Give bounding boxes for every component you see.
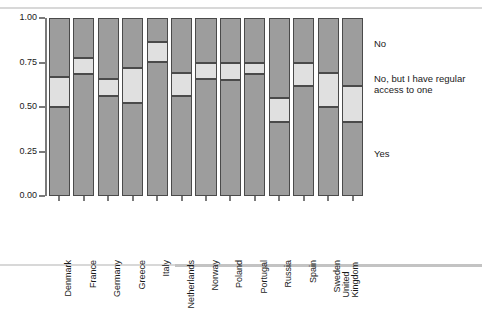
y-axis-tick — [39, 106, 45, 108]
bar-segment-no — [122, 18, 143, 68]
bar-segment-no — [171, 18, 192, 73]
legend-label-line: access to one — [374, 84, 480, 95]
x-axis-tick — [181, 196, 183, 201]
stacked-bar — [244, 18, 265, 196]
bar-segment-no-but-access — [244, 63, 265, 75]
x-axis-label-denmark: Denmark — [63, 260, 73, 297]
bar-segment-yes — [171, 96, 192, 196]
x-axis-tick — [205, 196, 207, 201]
y-axis-tick-label: 0.75 — [1, 58, 37, 67]
x-axis-label-norway: Norway — [210, 260, 220, 291]
legend-label-2: Yes — [374, 148, 480, 159]
x-axis-label-italy: Italy — [161, 260, 171, 277]
bar-segment-no-but-access — [49, 77, 70, 107]
y-axis-tick-label: 0.00 — [1, 191, 37, 200]
legend-label-line: Yes — [374, 148, 480, 159]
x-axis-label-greece: Greece — [137, 260, 147, 290]
legend-label-0: No — [374, 38, 480, 49]
legend-label-line: No — [374, 38, 480, 49]
stacked-bar — [147, 18, 168, 196]
stacked-bar — [73, 18, 94, 196]
bar-segment-no — [318, 18, 339, 73]
stacked-bar — [220, 18, 241, 196]
x-axis-tick — [58, 196, 60, 201]
y-axis-tick-labels: 0.000.250.500.751.00 — [0, 0, 37, 274]
stacked-bar — [269, 18, 290, 196]
x-axis-tick — [254, 196, 256, 201]
bar-segment-no-but-access — [122, 68, 143, 104]
bar-segment-no-but-access — [171, 73, 192, 96]
x-axis-label-portugal: Portugal — [259, 260, 269, 294]
legend-label-1: No, but I have regularaccess to one — [374, 73, 480, 95]
bar-segment-no — [147, 18, 168, 42]
stacked-bar — [49, 18, 70, 196]
x-axis-tick — [352, 196, 354, 201]
bar-segment-no — [49, 18, 70, 77]
x-axis-label-poland: Poland — [234, 260, 244, 288]
y-axis-tick — [39, 17, 45, 19]
stacked-bar — [98, 18, 119, 196]
bar-segment-no — [195, 18, 216, 63]
bar-segment-yes — [122, 103, 143, 196]
bar-segment-yes — [73, 74, 94, 196]
bar-segment-yes — [318, 107, 339, 196]
x-axis-tick — [83, 196, 85, 201]
y-axis-tick — [39, 151, 45, 153]
stacked-bar — [318, 18, 339, 196]
y-axis-tick-label: 0.25 — [1, 147, 37, 156]
bar-segment-no-but-access — [147, 42, 168, 62]
x-axis-label-spain: Spain — [308, 260, 318, 283]
bar-segment-yes — [147, 62, 168, 196]
bar-segment-yes — [98, 96, 119, 196]
bar-segment-no — [220, 18, 241, 63]
bar-segment-yes — [195, 79, 216, 196]
bar-segment-yes — [220, 80, 241, 196]
plot-area — [47, 18, 365, 196]
x-axis-tick — [156, 196, 158, 201]
legend-label-line: No, but I have regular — [374, 73, 480, 84]
x-axis-tick — [327, 196, 329, 201]
bar-segment-no — [342, 18, 363, 86]
x-axis-label-germany: Germany — [112, 260, 122, 297]
x-axis-label-russia: Russia — [283, 260, 293, 288]
bar-segment-no-but-access — [318, 73, 339, 107]
bar-segment-yes — [244, 74, 265, 196]
bar-segment-no-but-access — [293, 63, 314, 86]
x-axis-tick — [107, 196, 109, 201]
stacked-bar — [342, 18, 363, 196]
x-axis-tick — [229, 196, 231, 201]
bar-segment-no — [98, 18, 119, 79]
bar-segment-no-but-access — [342, 86, 363, 122]
x-axis-label-united-kingdom: UnitedKingdom — [341, 262, 360, 298]
bar-segment-no — [244, 18, 265, 63]
bar-segment-yes — [293, 86, 314, 196]
bar-segment-no-but-access — [73, 58, 94, 74]
x-axis-label-france: France — [88, 260, 98, 288]
y-axis-tick — [39, 195, 45, 197]
stacked-bar — [122, 18, 143, 196]
bar-segment-yes — [342, 122, 363, 196]
bar-segment-no-but-access — [220, 63, 241, 81]
bar-segment-no-but-access — [98, 79, 119, 96]
x-axis-tick — [303, 196, 305, 201]
x-axis-label-netherlands: Netherlands — [186, 260, 196, 309]
y-axis-tick-label: 0.50 — [1, 102, 37, 111]
bar-segment-no — [269, 18, 290, 98]
top-divider — [0, 7, 482, 9]
bar-segment-yes — [49, 107, 70, 196]
x-axis-tick — [278, 196, 280, 201]
bottom-accent-divider — [175, 264, 482, 267]
x-axis-tick — [132, 196, 134, 201]
bar-segment-no — [293, 18, 314, 63]
y-axis-tick-label: 1.00 — [1, 13, 37, 22]
stacked-bar — [293, 18, 314, 196]
y-axis-tick — [39, 62, 45, 64]
bar-segment-no-but-access — [269, 98, 290, 122]
bar-segment-yes — [269, 122, 290, 196]
bar-segment-no — [73, 18, 94, 58]
bar-segment-no-but-access — [195, 63, 216, 80]
stacked-bar — [195, 18, 216, 196]
stacked-bar — [171, 18, 192, 196]
